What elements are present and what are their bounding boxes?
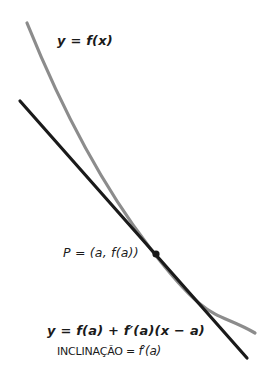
function-curve bbox=[27, 23, 255, 333]
slope-word: INCLINAÇÃO = bbox=[57, 345, 135, 358]
slope-label: INCLINAÇÃO = f′(a) bbox=[57, 344, 161, 358]
tangency-point bbox=[152, 250, 159, 257]
tangent-line bbox=[20, 101, 247, 358]
slope-value: f′(a) bbox=[138, 344, 161, 358]
tangent-equation: y = f(a) + f′(a)(x − a) bbox=[47, 323, 205, 338]
curve-label: y = f(x) bbox=[57, 33, 113, 48]
point-label: P = (a, f(a)) bbox=[63, 245, 139, 260]
